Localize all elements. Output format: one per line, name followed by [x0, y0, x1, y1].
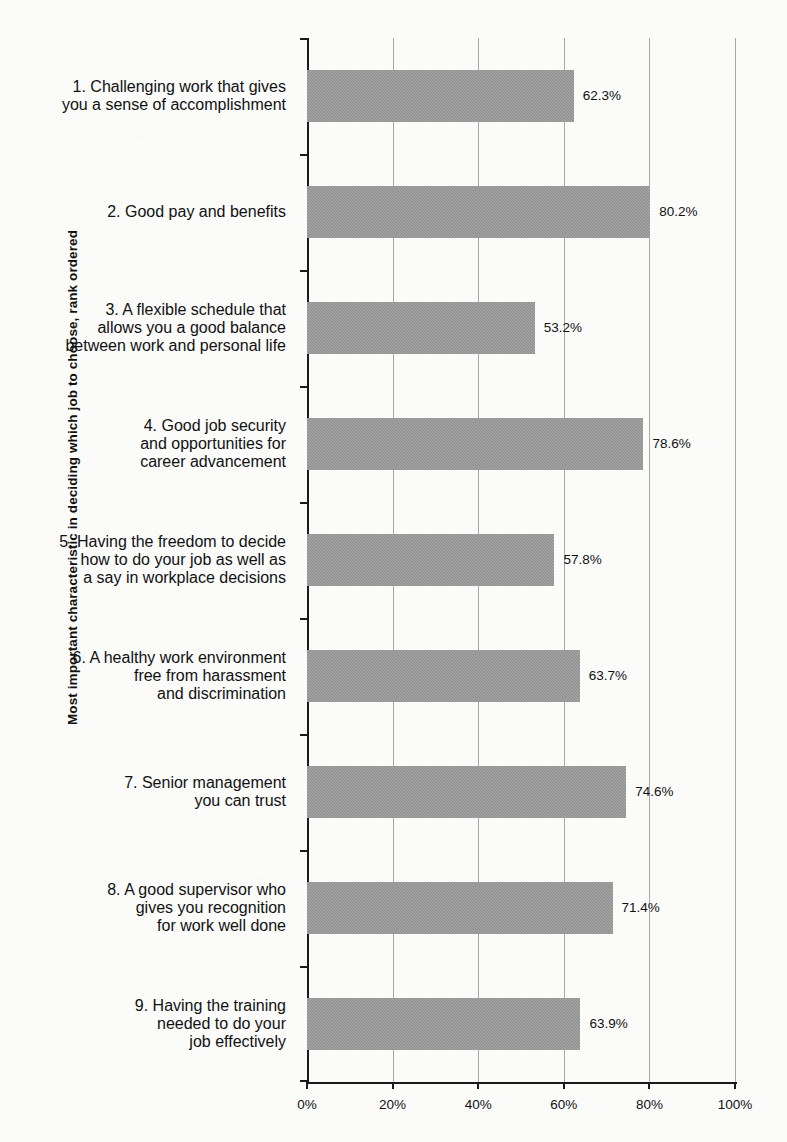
bar-value-label: 53.2% — [544, 319, 582, 337]
category-label: 4. Good job securityand opportunities fo… — [36, 416, 286, 473]
bar-value-label: 57.8% — [563, 551, 601, 569]
y-tick-mark — [300, 154, 308, 156]
x-tick-label: 40% — [448, 1097, 508, 1112]
x-tick-mark — [392, 1082, 394, 1089]
x-tick-label: 60% — [534, 1097, 594, 1112]
category-label-line: between work and personal life — [36, 337, 286, 355]
bar[interactable] — [307, 186, 650, 238]
bar[interactable] — [307, 534, 554, 586]
bar[interactable] — [307, 650, 580, 702]
category-label-line: 4. Good job security — [36, 417, 286, 435]
y-tick-mark — [300, 966, 308, 968]
category-label-line: you a sense of accomplishment — [36, 96, 286, 114]
category-label: 8. A good supervisor whogives you recogn… — [36, 880, 286, 937]
category-label: 9. Having the trainingneeded to do yourj… — [36, 996, 286, 1053]
category-label-line: needed to do your — [36, 1015, 286, 1033]
bar[interactable] — [307, 418, 643, 470]
x-tick-mark — [563, 1082, 565, 1089]
x-tick-label: 80% — [619, 1097, 679, 1112]
plot-area — [307, 38, 735, 1082]
category-label-line: job effectively — [36, 1033, 286, 1051]
category-label-line: 2. Good pay and benefits — [36, 203, 286, 221]
category-label: 2. Good pay and benefits — [36, 203, 286, 222]
category-label-line: 8. A good supervisor who — [36, 881, 286, 899]
category-label: 6. A healthy work environmentfree from h… — [36, 648, 286, 705]
category-label-column: 1. Challenging work that givesyou a sens… — [40, 38, 298, 1082]
category-label-line: and opportunities for — [36, 435, 286, 453]
category-label-line: free from harassment — [36, 667, 286, 685]
bar-value-label: 63.9% — [589, 1015, 627, 1033]
x-tick-label: 0% — [277, 1097, 337, 1112]
y-tick-mark — [300, 618, 308, 620]
category-label-line: 9. Having the training — [36, 997, 286, 1015]
category-label-line: 1. Challenging work that gives — [36, 78, 286, 96]
category-label: 5. Having the freedom to decidehow to do… — [36, 532, 286, 589]
category-label: 1. Challenging work that givesyou a sens… — [36, 77, 286, 115]
category-label-line: and discrimination — [36, 685, 286, 703]
category-label-line: 6. A healthy work environment — [36, 649, 286, 667]
bar-value-label: 74.6% — [635, 783, 673, 801]
y-tick-mark — [300, 734, 308, 736]
bar-value-label: 78.6% — [652, 435, 690, 453]
gridline-100 — [735, 38, 736, 1082]
category-label-line: 3. A flexible schedule that — [36, 301, 286, 319]
category-label-line: a say in workplace decisions — [36, 569, 286, 587]
bar[interactable] — [307, 70, 574, 122]
y-tick-mark — [300, 502, 308, 504]
x-tick-mark — [734, 1082, 736, 1089]
category-label: 3. A flexible schedule thatallows you a … — [36, 300, 286, 357]
category-label: 7. Senior managementyou can trust — [36, 773, 286, 811]
y-tick-mark — [300, 850, 308, 852]
category-label-line: allows you a good balance — [36, 319, 286, 337]
category-label-line: 5. Having the freedom to decide — [36, 533, 286, 551]
x-tick-label: 100% — [705, 1097, 765, 1112]
category-label-line: 7. Senior management — [36, 774, 286, 792]
category-label-line: gives you recognition — [36, 899, 286, 917]
horizontal-bar-chart: Most important characteristic in decidin… — [0, 0, 787, 1142]
bar-value-label: 71.4% — [622, 899, 660, 917]
y-tick-mark — [300, 38, 308, 40]
bar[interactable] — [307, 998, 580, 1050]
bar-value-label: 80.2% — [659, 203, 697, 221]
category-label-line: for work well done — [36, 917, 286, 935]
y-tick-mark — [300, 386, 308, 388]
bar-value-label: 62.3% — [583, 87, 621, 105]
category-label-line: you can trust — [36, 792, 286, 810]
category-label-line: how to do your job as well as — [36, 551, 286, 569]
x-tick-mark — [648, 1082, 650, 1089]
x-tick-mark — [306, 1082, 308, 1089]
bar[interactable] — [307, 882, 613, 934]
y-tick-mark — [300, 1080, 308, 1082]
bar-value-label: 63.7% — [589, 667, 627, 685]
x-tick-mark — [477, 1082, 479, 1089]
category-label-line: career advancement — [36, 453, 286, 471]
bar[interactable] — [307, 302, 535, 354]
bar[interactable] — [307, 766, 626, 818]
y-tick-mark — [300, 270, 308, 272]
x-tick-label: 20% — [363, 1097, 423, 1112]
x-axis-line — [307, 1082, 737, 1084]
